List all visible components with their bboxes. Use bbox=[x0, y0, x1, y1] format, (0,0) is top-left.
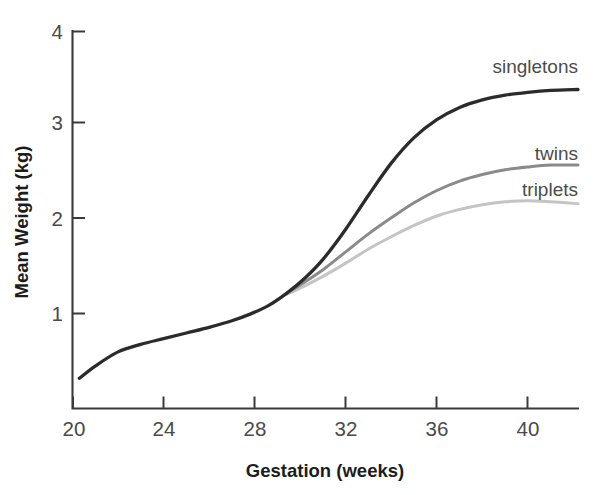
y-tick-label-1: 1 bbox=[52, 302, 63, 325]
series-label-twins: twins bbox=[535, 143, 578, 164]
series-label-singletons: singletons bbox=[492, 56, 578, 77]
chart-figure: 4 3 2 1 20 24 28 32 36 40 Gestation (wee… bbox=[0, 0, 603, 495]
y-tick-label-4: 4 bbox=[52, 20, 63, 43]
x-axis-title: Gestation (weeks) bbox=[246, 460, 404, 481]
x-tick-label-40: 40 bbox=[517, 417, 540, 440]
chart-canvas: 4 3 2 1 20 24 28 32 36 40 Gestation (wee… bbox=[0, 0, 603, 495]
y-axis-title: Mean Weight (kg) bbox=[11, 146, 32, 299]
x-tick-label-24: 24 bbox=[153, 417, 176, 440]
x-tick-label-28: 28 bbox=[244, 417, 267, 440]
y-tick-label-2: 2 bbox=[52, 207, 63, 230]
x-tick-label-20: 20 bbox=[63, 417, 86, 440]
x-tick-label-32: 32 bbox=[335, 417, 358, 440]
y-tick-label-3: 3 bbox=[52, 111, 63, 134]
x-tick-label-36: 36 bbox=[426, 417, 449, 440]
series-label-triplets: triplets bbox=[522, 179, 578, 200]
